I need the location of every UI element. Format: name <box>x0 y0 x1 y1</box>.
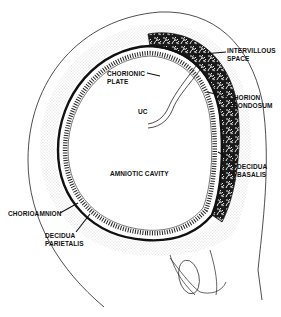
label-intervillous-space: INTERVILLOUS SPACE <box>227 47 276 62</box>
label-chorion-frondosum: CHORION FRONDOSUM <box>229 94 273 109</box>
label-uc: UC <box>138 108 148 116</box>
label-chorioamnion: CHORIOAMNION <box>8 210 62 218</box>
label-decidua-basalis: DECIDUA BASALIS <box>237 163 267 178</box>
label-chorionic-plate: CHORIONIC PLATE <box>107 70 145 85</box>
label-decidua-parietalis: DECIDUA PARIETALIS <box>45 232 84 247</box>
label-amniotic-cavity: AMNIOTIC CAVITY <box>110 170 169 178</box>
leader-chorionic-plate <box>147 73 160 76</box>
decidua-band <box>40 24 251 256</box>
